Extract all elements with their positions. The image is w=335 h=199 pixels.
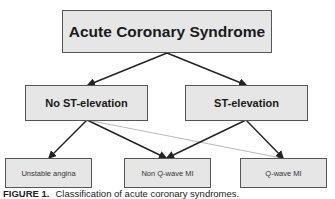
arrow-no-st-to-non-q-wave	[87, 120, 166, 158]
node-non-q-wave-mi: Non Q-wave MI	[124, 158, 211, 188]
node-unstable-angina: Unstable angina	[5, 158, 92, 188]
node-no-st-elevation: No ST-elevation	[25, 85, 148, 121]
node-label: Non Q-wave MI	[141, 169, 193, 178]
node-st-elevation: ST-elevation	[185, 85, 308, 121]
arrow-no-st-to-unstable-angina	[49, 120, 87, 158]
arrow-st-to-non-q-wave	[167, 120, 246, 158]
figure-caption: FIGURE 1.Classification of acute coronar…	[3, 188, 239, 199]
node-label: Unstable angina	[21, 169, 75, 178]
arrow-root-to-st	[167, 53, 246, 85]
node-label: Acute Coronary Syndrome	[69, 23, 265, 41]
node-acute-coronary-syndrome: Acute Coronary Syndrome	[62, 10, 272, 53]
node-label: Q-wave MI	[265, 169, 301, 178]
node-label: No ST-elevation	[45, 97, 128, 109]
node-label: ST-elevation	[214, 97, 279, 109]
arrow-root-to-no-st	[88, 53, 167, 85]
caption-text: Classification of acute coronary syndrom…	[55, 188, 239, 199]
caption-label: FIGURE 1.	[3, 188, 49, 199]
node-q-wave-mi: Q-wave MI	[240, 158, 327, 188]
